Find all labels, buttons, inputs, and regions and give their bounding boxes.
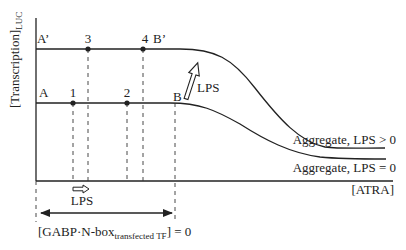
x-axis-label: [ATRA]	[351, 182, 394, 197]
point-1	[70, 100, 75, 105]
lps-lift-label: LPS	[197, 80, 219, 95]
lps-shift-label: LPS	[71, 193, 93, 208]
label-a-prime: A’	[37, 31, 49, 46]
transcription-diagram: [Transcription]LUC [ATRA] 1 2 3 4 A’ A B…	[0, 0, 406, 250]
aggregate-lps-zero-label: Aggregate, LPS = 0	[293, 160, 396, 175]
point-4	[140, 46, 145, 51]
label-b-prime: B’	[153, 31, 166, 46]
point-3	[85, 46, 90, 51]
point-2	[124, 100, 129, 105]
label-a: A	[39, 85, 49, 100]
point-1-label: 1	[70, 85, 77, 100]
label-b: B	[173, 89, 182, 104]
y-axis-label: [Transcription]LUC	[7, 12, 24, 108]
range-label: [GABP·N-boxtransfected TF] = 0	[38, 224, 191, 241]
aggregate-lps-positive-label: Aggregate, LPS > 0	[293, 132, 396, 147]
point-3-label: 3	[85, 31, 92, 46]
point-4-label: 4	[142, 31, 149, 46]
lps-shift-arrow-icon	[73, 185, 89, 193]
lower-curve	[36, 103, 386, 159]
point-2-label: 2	[124, 85, 131, 100]
